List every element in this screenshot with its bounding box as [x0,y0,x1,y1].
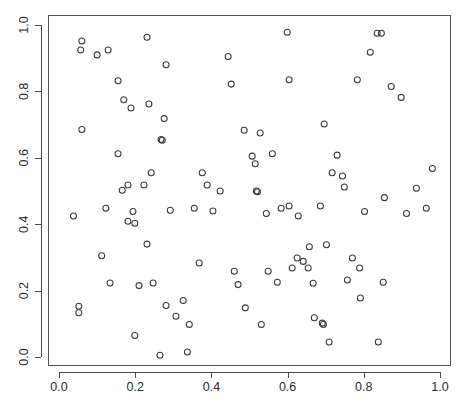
data-point [136,283,142,289]
data-point [186,321,192,327]
y-axis: 0.00.20.40.60.81.0 [17,16,41,365]
data-point [144,34,150,40]
data-point [413,185,419,191]
data-point [76,303,82,309]
data-point [132,332,138,338]
data-point [132,220,138,226]
plot-canvas: 0.00.20.40.60.81.0 0.00.20.40.60.81.0 [0,0,470,414]
data-point [144,241,150,247]
data-point [210,208,216,214]
data-point [107,280,113,286]
data-point [286,203,292,209]
data-point [278,205,284,211]
data-point [381,195,387,201]
data-point [242,305,248,311]
data-point [157,352,163,358]
scatter-plot-figure: 0.00.20.40.60.81.0 0.00.20.40.60.81.0 [0,0,470,414]
data-point [70,213,76,219]
data-point [329,170,335,176]
data-point [103,205,109,211]
data-point [241,127,247,133]
data-point [167,207,173,213]
data-point [173,313,179,319]
data-point [79,127,85,133]
data-point [317,203,323,209]
data-point [362,209,368,215]
y-axis-tick-label: 1.0 [17,16,31,33]
data-point [305,265,311,271]
data-point [225,54,231,60]
data-point [231,268,237,274]
data-point [235,282,241,288]
data-point [99,253,105,259]
data-point [344,277,350,283]
data-point [180,298,186,304]
data-point [380,279,386,285]
y-axis-tick-label: 0.0 [17,348,31,365]
data-point [146,101,152,107]
data-point [357,295,363,301]
data-point [125,182,131,188]
data-point [284,29,290,35]
data-point [130,209,136,215]
data-point [398,94,404,100]
data-point [257,130,263,136]
x-axis-tick-label: 0.6 [279,380,296,394]
data-point [128,105,134,111]
data-point [295,213,301,219]
data-point [163,303,169,309]
data-point [115,151,121,157]
y-axis-tick-label: 0.8 [17,83,31,100]
data-point [334,152,340,158]
data-point [78,47,84,53]
data-point [94,52,100,58]
data-point [375,339,381,345]
data-point [105,47,111,53]
y-axis-tick-label: 0.6 [17,149,31,166]
data-point [321,121,327,127]
data-point [150,280,156,286]
data-point [286,77,292,83]
data-point [357,265,363,271]
data-point [378,30,384,36]
data-point [184,349,190,355]
data-point [341,184,347,190]
data-point [79,38,85,44]
x-axis-tick-label: 0.0 [50,380,67,394]
data-point [349,255,355,261]
data-point [269,151,275,157]
data-point [388,83,394,89]
y-axis-tick-label: 0.4 [17,215,31,232]
data-point [367,49,373,55]
data-point [141,182,147,188]
data-point [326,339,332,345]
x-axis-tick-label: 0.8 [355,380,372,394]
data-point [217,188,223,194]
data-point [403,211,409,217]
data-point [121,97,127,103]
data-point [300,258,306,264]
data-point [161,116,167,122]
data-point [119,187,125,193]
x-axis-tick-label: 1.0 [431,380,448,394]
data-point [294,255,300,261]
data-point [115,78,121,84]
data-point [163,62,169,68]
data-point [76,310,82,316]
data-point [125,218,131,224]
x-axis-tick-label: 0.2 [127,380,144,394]
x-axis: 0.00.20.40.60.81.0 [50,372,448,394]
plot-border-box [49,16,451,366]
data-point [339,173,345,179]
y-axis-tick-label: 0.2 [17,282,31,299]
data-point [310,280,316,286]
data-point [311,315,317,321]
data-point [274,279,280,285]
data-point [148,170,154,176]
data-point [306,244,312,250]
data-point [258,321,264,327]
data-point [191,205,197,211]
data-point [204,182,210,188]
data-point [354,77,360,83]
x-axis-tick-label: 0.4 [203,380,220,394]
